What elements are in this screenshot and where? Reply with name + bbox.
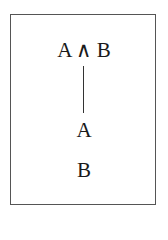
node-a: A: [0, 120, 168, 141]
node-conjunction: A ∧ B: [0, 40, 168, 61]
edge-root-to-a: [83, 66, 84, 113]
node-b: B: [0, 160, 168, 181]
